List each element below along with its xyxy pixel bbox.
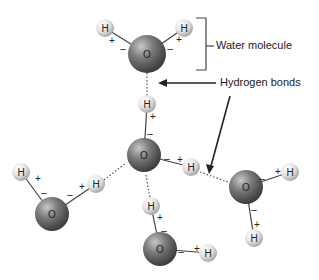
svg-text:–: – [120,43,126,54]
svg-text:+: + [176,34,182,45]
water-molecule-label: Water molecule [216,39,292,51]
hydrogen-bond-lines [104,73,228,198]
svg-text:H: H [92,179,99,190]
svg-text:–: – [41,187,47,198]
svg-text:H: H [180,23,187,34]
svg-text:+: + [157,212,163,223]
svg-text:–: – [167,43,173,54]
svg-text:–: – [259,173,265,184]
svg-text:–: – [147,128,153,139]
svg-text:O: O [48,209,56,220]
hydrogen-label: H [101,23,108,34]
oxygen-label: O [143,49,151,60]
svg-text:H: H [204,248,211,259]
svg-text:H: H [187,162,194,173]
svg-text:–: – [251,204,257,215]
svg-text:+: + [194,243,200,254]
svg-text:+: + [79,181,85,192]
svg-text:H: H [286,167,293,178]
svg-text:–: – [164,153,170,164]
svg-text:H: H [250,233,257,244]
hydrogen-bonds-label: Hydrogen bonds [220,76,301,88]
svg-text:+: + [275,166,281,177]
svg-text:O: O [242,182,250,193]
svg-text:–: – [178,246,184,257]
svg-text:+: + [254,219,260,230]
water-molecule-bracket [196,18,214,70]
svg-text:+: + [177,154,183,165]
svg-text:H: H [143,99,150,110]
water-hydrogen-bond-diagram: O O O O O H H H H H H H H H H + – – + + … [0,0,319,280]
svg-text:+: + [35,173,41,184]
svg-text:+: + [109,35,115,46]
svg-text:O: O [156,244,164,255]
svg-text:O: O [140,150,148,161]
svg-text:H: H [17,167,24,178]
svg-text:H: H [147,201,154,212]
svg-text:–: – [161,225,167,236]
oxygen-atoms [35,35,263,266]
svg-text:+: + [150,111,156,122]
svg-text:–: – [67,189,73,200]
